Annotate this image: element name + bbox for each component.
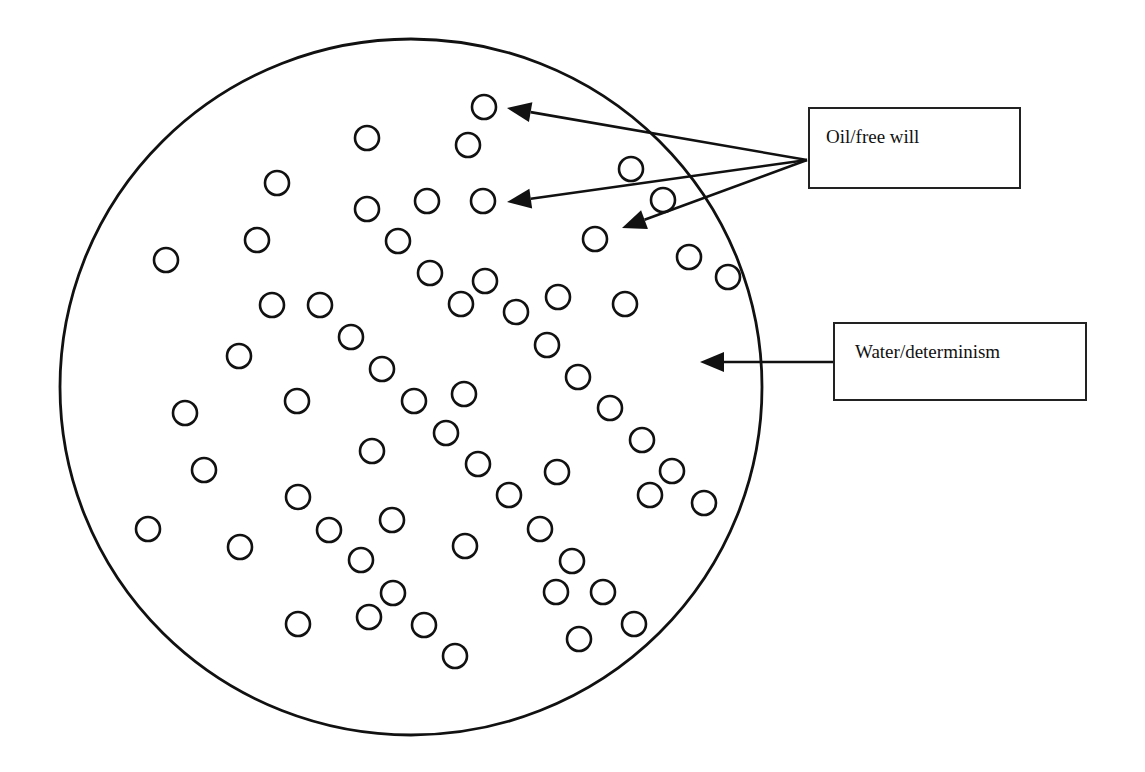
oil-particle bbox=[360, 439, 384, 463]
oil-particle bbox=[472, 95, 496, 119]
oil-particle bbox=[227, 344, 251, 368]
oil-particle bbox=[285, 389, 309, 413]
oil-particle bbox=[598, 396, 622, 420]
oil-particle bbox=[449, 292, 473, 316]
oil-particle bbox=[545, 460, 569, 484]
oil-particle bbox=[528, 517, 552, 541]
oil-particle bbox=[402, 389, 426, 413]
oil-particle bbox=[386, 229, 410, 253]
oil-particle bbox=[443, 644, 467, 668]
arrows-group bbox=[507, 102, 833, 372]
oil-particle bbox=[473, 269, 497, 293]
oil-particle bbox=[613, 292, 637, 316]
oil-particle bbox=[412, 613, 436, 637]
oil-particle bbox=[260, 293, 284, 317]
oil-particle bbox=[535, 333, 559, 357]
oil-particle bbox=[677, 245, 701, 269]
oil-particle bbox=[349, 548, 373, 572]
oil-particle bbox=[546, 285, 570, 309]
oil-particle bbox=[622, 612, 646, 636]
oil-particle bbox=[504, 300, 528, 324]
oil-particle bbox=[308, 293, 332, 317]
oil-free-will-label-box bbox=[808, 107, 1021, 189]
oil-particle bbox=[228, 535, 252, 559]
oil-particle bbox=[370, 357, 394, 381]
oil-particle bbox=[456, 133, 480, 157]
oil-particle bbox=[660, 459, 684, 483]
oil-particle bbox=[265, 171, 289, 195]
oil-particle bbox=[630, 428, 654, 452]
oil-particle bbox=[286, 612, 310, 636]
oil-particle bbox=[357, 605, 381, 629]
oil-particle bbox=[466, 452, 490, 476]
oil-particle bbox=[560, 549, 584, 573]
oil-particle bbox=[173, 401, 197, 425]
oil-particle bbox=[453, 534, 477, 558]
oil-particle bbox=[452, 382, 476, 406]
oil-particle bbox=[355, 126, 379, 150]
oil-particle bbox=[286, 485, 310, 509]
oil-particle bbox=[245, 228, 269, 252]
oil-particle bbox=[339, 325, 363, 349]
oil-particle bbox=[619, 157, 643, 181]
arrowhead-icon bbox=[622, 210, 648, 229]
oil-free-will-label: Oil/free will bbox=[826, 126, 919, 148]
oil-particle bbox=[418, 261, 442, 285]
oil-particle bbox=[136, 517, 160, 541]
oil-particle bbox=[415, 189, 439, 213]
oil-particle bbox=[566, 365, 590, 389]
oil-particle bbox=[497, 483, 521, 507]
oil-particle bbox=[192, 458, 216, 482]
oil-particle bbox=[355, 197, 379, 221]
oil-particle bbox=[583, 227, 607, 251]
oil-particle bbox=[567, 627, 591, 651]
oil-particle bbox=[591, 580, 615, 604]
oil-particle bbox=[381, 581, 405, 605]
oil-particle bbox=[716, 265, 740, 289]
arrowhead-icon bbox=[507, 102, 532, 122]
oil-particle bbox=[154, 248, 178, 272]
water-determinism-label: Water/determinism bbox=[855, 341, 1000, 363]
oil-particle bbox=[380, 508, 404, 532]
oil-particle bbox=[544, 580, 568, 604]
arrowhead-icon bbox=[507, 189, 532, 209]
oil-particle bbox=[692, 491, 716, 515]
oil-particle bbox=[434, 421, 458, 445]
arrowhead-icon bbox=[700, 352, 724, 372]
water-container-circle bbox=[60, 39, 762, 735]
arrow-line bbox=[531, 160, 807, 199]
oil-particle bbox=[638, 483, 662, 507]
oil-particle bbox=[317, 518, 341, 542]
oil-particle bbox=[651, 188, 675, 212]
oil-particle bbox=[471, 189, 495, 213]
